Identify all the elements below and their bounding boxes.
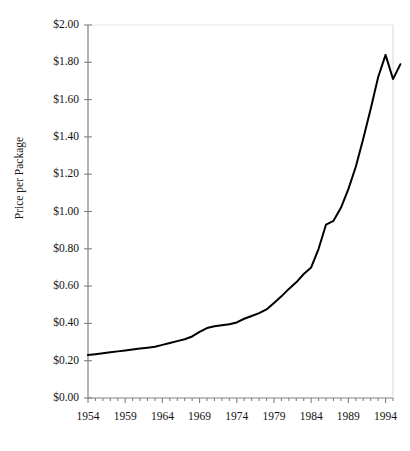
price-per-package-chart: Price per Package $2.00$1.80$1.60$1.40$1… xyxy=(0,0,410,451)
axis-lines xyxy=(88,25,393,398)
tick-marks xyxy=(84,25,393,403)
price-line-series xyxy=(88,55,400,355)
plot-area xyxy=(0,0,410,451)
